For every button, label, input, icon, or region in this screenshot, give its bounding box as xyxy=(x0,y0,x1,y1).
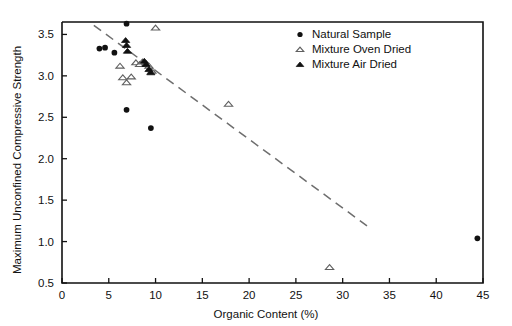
data-point-open-triangle xyxy=(122,80,130,85)
y-tick-label: 3.5 xyxy=(38,28,54,40)
data-point-open-triangle xyxy=(296,47,304,51)
series-mixture-air-dried xyxy=(121,38,155,75)
y-tick-label: 1.5 xyxy=(38,194,54,206)
data-point-circle xyxy=(124,21,130,27)
trend-line-group xyxy=(94,25,367,226)
series-mixture-oven-dried xyxy=(116,25,334,269)
series-natural-sample xyxy=(97,21,481,241)
data-point-circle xyxy=(124,107,130,113)
x-tick-label: 30 xyxy=(336,289,349,301)
x-tick-label: 35 xyxy=(383,289,396,301)
data-point-circle xyxy=(148,125,154,131)
y-tick-label: 2.5 xyxy=(38,111,54,123)
data-point-circle xyxy=(297,32,302,37)
axis-frame xyxy=(62,22,483,283)
data-point-open-triangle xyxy=(116,63,124,68)
plot-area: 051015202530354045 0.51.01.52.02.53.03.5… xyxy=(0,0,512,326)
x-tick-label: 40 xyxy=(430,289,443,301)
data-point-open-triangle xyxy=(151,25,159,30)
x-tick-label: 0 xyxy=(59,289,65,301)
data-point-open-triangle xyxy=(127,74,135,79)
x-axis-ticks: 051015202530354045 xyxy=(59,278,490,301)
y-tick-label: 0.5 xyxy=(38,277,54,289)
data-point-open-triangle xyxy=(224,101,232,106)
x-tick-label: 25 xyxy=(289,289,302,301)
data-point-open-triangle xyxy=(119,75,127,80)
data-point-filled-triangle xyxy=(123,48,131,53)
axis-frame-path xyxy=(62,22,483,283)
data-point-circle xyxy=(97,46,103,52)
data-point-circle xyxy=(112,50,118,56)
y-tick-label: 2.0 xyxy=(38,153,54,165)
data-point-circle xyxy=(475,235,481,241)
scatter-chart: 051015202530354045 0.51.01.52.02.53.03.5… xyxy=(0,0,512,326)
chart-legend: Natural SampleMixture Oven DriedMixture … xyxy=(296,28,411,70)
trend-line xyxy=(94,25,367,226)
x-tick-label: 15 xyxy=(196,289,209,301)
data-point-filled-triangle xyxy=(122,43,130,48)
data-point-open-triangle xyxy=(325,265,333,270)
x-tick-label: 20 xyxy=(243,289,256,301)
y-axis-title: Maximum Unconfined Compressive Strength xyxy=(11,46,23,274)
legend-label: Natural Sample xyxy=(312,28,391,40)
legend-label: Mixture Oven Dried xyxy=(312,43,411,55)
x-tick-label: 5 xyxy=(106,289,112,301)
data-point-filled-triangle xyxy=(296,62,304,66)
data-point-filled-triangle xyxy=(121,38,129,43)
legend-label: Mixture Air Dried xyxy=(312,58,397,70)
data-points xyxy=(97,21,481,270)
y-tick-label: 3.0 xyxy=(38,70,54,82)
x-tick-label: 10 xyxy=(149,289,162,301)
x-axis-title: Organic Content (%) xyxy=(214,308,319,320)
data-point-circle xyxy=(102,45,108,51)
y-tick-label: 1.0 xyxy=(38,236,54,248)
x-tick-label: 45 xyxy=(477,289,490,301)
